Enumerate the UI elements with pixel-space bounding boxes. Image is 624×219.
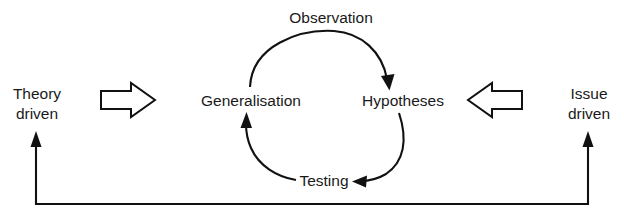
testing-generalisation-arc-path [246, 124, 296, 180]
edge-label-observation: Observation [289, 9, 373, 26]
feedback-left-arrowhead-icon [31, 131, 42, 147]
side-label-issue-driven-line2: driven [568, 105, 610, 122]
edge-hypotheses-to-testing [352, 113, 404, 188]
testing-generalisation-arrowhead-icon [241, 112, 253, 128]
observation-arc-path [250, 31, 387, 87]
theory-driven-block-arrow-icon [101, 83, 155, 117]
edge-generalisation-to-hypotheses [250, 31, 395, 91]
side-label-theory-driven-line1: Theory [13, 85, 61, 102]
feedback-right-arrowhead-icon [583, 131, 594, 147]
research-cycle-diagram: Generalisation Hypotheses Testing Observ… [0, 0, 624, 219]
node-label-generalisation: Generalisation [201, 92, 301, 109]
observation-arrowhead-icon [381, 74, 395, 91]
feedback-bracket [31, 131, 594, 204]
edge-testing-to-generalisation [241, 112, 297, 180]
side-label-issue-driven-line1: Issue [570, 85, 607, 102]
node-label-hypotheses: Hypotheses [362, 92, 444, 109]
diagram-canvas: Generalisation Hypotheses Testing Observ… [0, 0, 624, 219]
hypotheses-testing-arrowhead-icon [352, 176, 367, 188]
hypotheses-testing-arc-path [360, 113, 404, 181]
issue-driven-block-arrow-icon [468, 83, 522, 117]
node-label-testing: Testing [299, 172, 348, 189]
side-label-theory-driven-line2: driven [16, 105, 58, 122]
